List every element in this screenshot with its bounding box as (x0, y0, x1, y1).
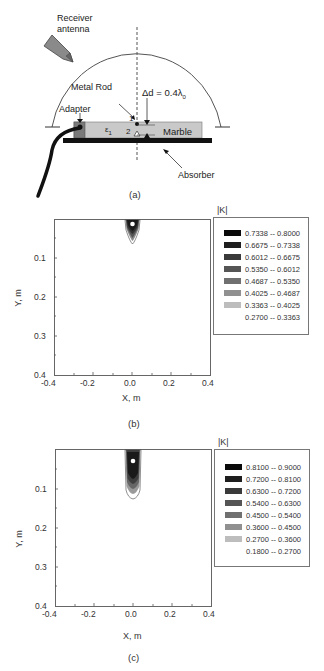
legend-item: 0.7200 -- 0.8100 (225, 474, 301, 484)
x-tick-c-0.2: 0.2 (164, 609, 176, 619)
legend-item: 0.1800 -- 0.2700 (225, 546, 301, 556)
legend-item: 0.3600 -- 0.4500 (225, 522, 301, 532)
legend-c: 0.8100 -- 0.9000 0.7200 -- 0.8100 0.6300… (214, 449, 310, 567)
plot-c-graphic (0, 0, 324, 671)
y-axis-label-c: Y, m (14, 530, 24, 547)
legend-item: 0.6300 -- 0.7200 (225, 486, 301, 496)
legend-item: 0.8100 -- 0.9000 (225, 462, 301, 472)
caption-c: (c) (128, 652, 139, 663)
x-tick-c-0.0: 0.0 (125, 609, 137, 619)
x-tick-c-neg0.4: -0.4 (42, 609, 57, 619)
x-tick-c-neg0.2: -0.2 (81, 609, 96, 619)
x-tick-c-0.4: 0.4 (203, 609, 215, 619)
x-axis-label-c: X, m (123, 631, 142, 641)
y-tick-c-0.3: 0.3 (35, 562, 47, 572)
legend-item: 0.4500 -- 0.5400 (225, 510, 301, 520)
legend-swatch (225, 464, 242, 470)
legend-swatch (225, 500, 242, 506)
legend-swatch (225, 524, 242, 530)
legend-swatch (225, 512, 242, 518)
legend-swatch (225, 488, 242, 494)
legend-swatch (225, 536, 242, 542)
y-tick-c-0.2: 0.2 (35, 523, 47, 533)
legend-item: 0.2700 -- 0.3600 (225, 534, 301, 544)
legend-item: 0.5400 -- 0.6300 (225, 498, 301, 508)
legend-title-c: |K| (218, 437, 229, 447)
legend-swatch (225, 476, 242, 482)
y-tick-c-0.1: 0.1 (35, 484, 47, 494)
legend-swatch (225, 548, 242, 554)
